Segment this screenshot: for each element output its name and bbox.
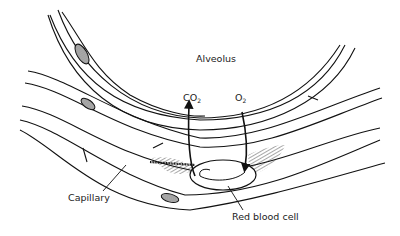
alveolus-label: Alveolus — [196, 53, 236, 64]
o2-label: O2 — [235, 92, 246, 104]
capillary-label: Capillary — [68, 192, 110, 203]
nucleus-2 — [79, 96, 97, 112]
co2-label: CO2 — [183, 92, 201, 104]
epithelium-layer-a — [28, 71, 380, 138]
o2-arrow — [242, 112, 246, 168]
alveolar-wall-2 — [48, 15, 355, 130]
o2-label-sub: 2 — [242, 97, 246, 104]
nucleus-3 — [160, 192, 179, 204]
red-blood-cell-label: Red blood cell — [232, 211, 299, 222]
capillary-leader — [103, 165, 126, 191]
diagram-artwork — [0, 0, 400, 236]
gas-exchange-diagram: Alveolus CO2 O2 Capillary Red blood cell — [0, 0, 400, 236]
co2-label-base: CO — [183, 92, 197, 103]
co2-label-sub: 2 — [197, 97, 201, 104]
